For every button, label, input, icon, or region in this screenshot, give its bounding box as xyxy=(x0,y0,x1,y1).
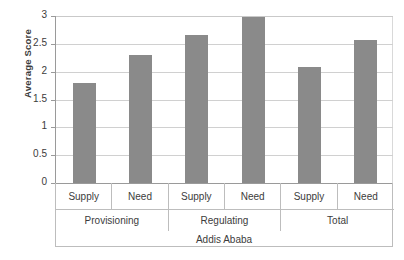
bar xyxy=(242,17,265,183)
bar-slot xyxy=(169,16,225,183)
x-category-label: Need xyxy=(338,183,394,209)
bar xyxy=(129,55,152,183)
y-tick-label: 1.5 xyxy=(0,94,47,104)
x-group-label: Regulating xyxy=(169,209,282,231)
x-category-label: Need xyxy=(112,183,168,209)
bar-slot xyxy=(338,16,394,183)
y-tick-label: 0 xyxy=(0,177,47,187)
x-category-label: Supply xyxy=(56,183,112,209)
bar-slot xyxy=(112,16,168,183)
plot-area xyxy=(55,16,393,183)
y-tick-label: 2 xyxy=(0,66,47,76)
x-axis-category-labels: SupplyNeedSupplyNeedSupplyNeed xyxy=(56,183,392,209)
x-axis-group-labels: ProvisioningRegulatingTotal xyxy=(56,209,392,231)
x-category-label: Supply xyxy=(281,183,337,209)
bar-slot xyxy=(56,16,112,183)
y-tick-label: 0.5 xyxy=(0,149,47,159)
x-category-label: Need xyxy=(225,183,281,209)
bar xyxy=(298,67,321,183)
y-tick-label: 2.5 xyxy=(0,38,47,48)
bar-chart: Average Score 00.511.522.53 SupplyNeedSu… xyxy=(0,0,404,260)
y-tick-label: 1 xyxy=(0,121,47,131)
bar-series xyxy=(56,16,392,183)
x-group-label: Provisioning xyxy=(56,209,169,231)
y-axis-title: Average Score xyxy=(22,4,33,124)
bar xyxy=(73,83,96,183)
y-tick-label: 3 xyxy=(0,10,47,20)
bar-slot xyxy=(225,16,281,183)
bar xyxy=(354,40,377,183)
x-axis-title: Addis Ababa xyxy=(56,231,392,247)
x-group-label: Total xyxy=(281,209,394,231)
bar-slot xyxy=(281,16,337,183)
x-axis: SupplyNeedSupplyNeedSupplyNeed Provision… xyxy=(55,183,393,247)
bar xyxy=(185,35,208,183)
x-category-label: Supply xyxy=(169,183,225,209)
